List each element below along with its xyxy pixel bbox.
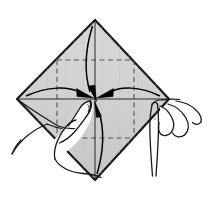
origami-illustration <box>0 0 210 202</box>
origami-diagram-figure: Origami fold step: collapse four corners… <box>0 0 210 202</box>
